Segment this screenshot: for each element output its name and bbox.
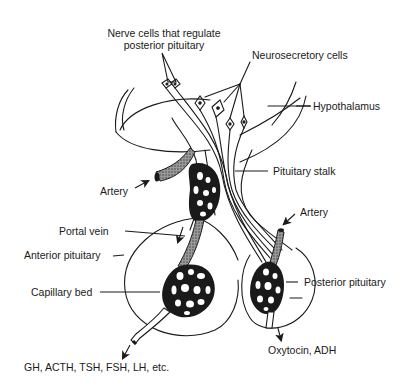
- posterior-nerve-cells: [162, 53, 180, 88]
- hypothalamus-outline: [240, 82, 310, 162]
- primary-capillary-plexus: [189, 163, 221, 222]
- anterior-output-arrow: [123, 345, 130, 358]
- pituitary-diagram: [0, 0, 418, 389]
- label-neurosecretory-cells: Neurosecretory cells: [252, 49, 348, 61]
- anterior-capillary-bed: [131, 265, 215, 344]
- neurosecretory-cells: [195, 62, 250, 130]
- label-portal-vein: Portal vein: [59, 225, 109, 237]
- label-artery-right: Artery: [300, 206, 328, 218]
- label-posterior-outputs: Oxytocin, ADH: [268, 344, 336, 356]
- posterior-output-arrow: [278, 328, 281, 340]
- label-hypothalamus: Hypothalamus: [313, 100, 380, 112]
- label-anterior-pituitary: Anterior pituitary: [24, 249, 100, 261]
- upper-artery-vessel: [155, 148, 196, 182]
- label-pituitary-stalk: Pituitary stalk: [273, 165, 335, 177]
- label-nerve-cells-line1: Nerve cells that regulate: [96, 27, 232, 39]
- label-posterior-pituitary: Posterior pituitary: [304, 276, 386, 288]
- right-artery-arrow: [284, 214, 295, 224]
- upper-artery-arrow: [135, 181, 148, 188]
- label-nerve-cells-line2: posterior pituitary: [96, 39, 232, 51]
- label-capillary-bed: Capillary bed: [31, 286, 92, 298]
- label-artery-upper: Artery: [100, 185, 128, 197]
- posterior-capillary-bed: [250, 262, 284, 328]
- label-anterior-outputs: GH, ACTH, TSH, FSH, LH, etc.: [24, 361, 169, 373]
- anterior-pituitary-leader: [113, 255, 124, 256]
- label-nerve-cells: Nerve cells that regulate posterior pitu…: [96, 27, 232, 51]
- portal-flow-arrow: [178, 227, 183, 242]
